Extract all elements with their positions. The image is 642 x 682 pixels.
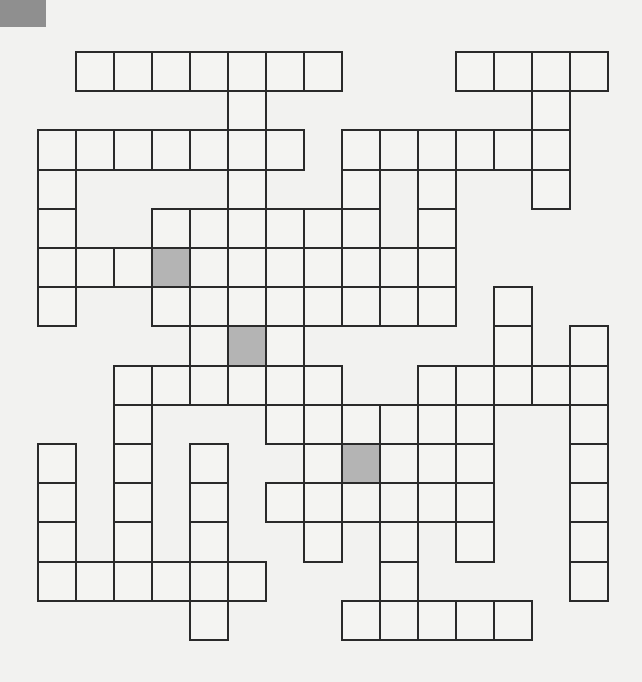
grid-cell[interactable] (455, 129, 495, 170)
grid-cell[interactable] (417, 286, 457, 327)
grid-cell[interactable] (341, 286, 381, 327)
grid-cell[interactable] (265, 404, 305, 445)
grid-cell[interactable] (417, 443, 457, 484)
grid-cell[interactable] (189, 208, 229, 249)
grid-cell[interactable] (303, 247, 343, 288)
grid-cell[interactable] (37, 247, 77, 288)
grid-cell[interactable] (113, 404, 153, 445)
grid-cell[interactable] (531, 169, 571, 210)
grid-cell[interactable] (417, 365, 457, 406)
grid-cell[interactable] (113, 482, 153, 523)
grid-cell[interactable] (75, 51, 115, 92)
grid-cell[interactable] (455, 365, 495, 406)
grid-cell[interactable] (265, 247, 305, 288)
grid-cell[interactable] (227, 51, 267, 92)
grid-cell[interactable] (379, 443, 419, 484)
grid-cell[interactable] (493, 325, 533, 366)
shaded-grid-cell[interactable] (227, 325, 267, 366)
grid-cell[interactable] (379, 521, 419, 562)
grid-cell[interactable] (151, 129, 191, 170)
grid-cell[interactable] (227, 561, 267, 602)
grid-cell[interactable] (227, 365, 267, 406)
grid-cell[interactable] (379, 600, 419, 641)
grid-cell[interactable] (227, 286, 267, 327)
grid-cell[interactable] (493, 51, 533, 92)
grid-cell[interactable] (75, 561, 115, 602)
grid-cell[interactable] (569, 482, 609, 523)
grid-cell[interactable] (341, 208, 381, 249)
grid-cell[interactable] (455, 600, 495, 641)
grid-cell[interactable] (189, 365, 229, 406)
grid-cell[interactable] (265, 51, 305, 92)
grid-cell[interactable] (265, 325, 305, 366)
grid-cell[interactable] (455, 482, 495, 523)
shaded-grid-cell[interactable] (341, 443, 381, 484)
grid-cell[interactable] (37, 286, 77, 327)
grid-cell[interactable] (75, 129, 115, 170)
grid-cell[interactable] (151, 365, 191, 406)
grid-cell[interactable] (37, 208, 77, 249)
grid-cell[interactable] (569, 404, 609, 445)
grid-cell[interactable] (341, 247, 381, 288)
grid-cell[interactable] (189, 443, 229, 484)
grid-cell[interactable] (227, 129, 267, 170)
grid-cell[interactable] (189, 521, 229, 562)
grid-cell[interactable] (531, 129, 571, 170)
grid-cell[interactable] (189, 247, 229, 288)
grid-cell[interactable] (341, 129, 381, 170)
grid-cell[interactable] (189, 325, 229, 366)
grid-cell[interactable] (303, 51, 343, 92)
grid-cell[interactable] (569, 521, 609, 562)
grid-cell[interactable] (37, 561, 77, 602)
grid-cell[interactable] (341, 169, 381, 210)
grid-cell[interactable] (455, 404, 495, 445)
grid-cell[interactable] (531, 90, 571, 131)
grid-cell[interactable] (113, 443, 153, 484)
grid-cell[interactable] (37, 169, 77, 210)
grid-cell[interactable] (417, 600, 457, 641)
grid-cell[interactable] (75, 247, 115, 288)
grid-cell[interactable] (341, 482, 381, 523)
grid-cell[interactable] (569, 325, 609, 366)
grid-cell[interactable] (265, 482, 305, 523)
grid-cell[interactable] (113, 129, 153, 170)
grid-cell[interactable] (189, 51, 229, 92)
grid-cell[interactable] (417, 247, 457, 288)
grid-cell[interactable] (151, 208, 191, 249)
grid-cell[interactable] (189, 129, 229, 170)
grid-cell[interactable] (113, 247, 153, 288)
grid-cell[interactable] (189, 286, 229, 327)
grid-cell[interactable] (303, 286, 343, 327)
grid-cell[interactable] (493, 286, 533, 327)
grid-cell[interactable] (113, 51, 153, 92)
grid-cell[interactable] (113, 365, 153, 406)
grid-cell[interactable] (189, 600, 229, 641)
grid-cell[interactable] (113, 521, 153, 562)
grid-cell[interactable] (569, 51, 609, 92)
grid-cell[interactable] (455, 521, 495, 562)
grid-cell[interactable] (341, 600, 381, 641)
grid-cell[interactable] (37, 482, 77, 523)
grid-cell[interactable] (265, 286, 305, 327)
grid-cell[interactable] (569, 443, 609, 484)
grid-cell[interactable] (417, 482, 457, 523)
grid-cell[interactable] (493, 365, 533, 406)
grid-cell[interactable] (303, 404, 343, 445)
grid-cell[interactable] (341, 404, 381, 445)
grid-cell[interactable] (531, 51, 571, 92)
grid-cell[interactable] (227, 169, 267, 210)
grid-cell[interactable] (227, 90, 267, 131)
grid-cell[interactable] (303, 208, 343, 249)
grid-cell[interactable] (227, 247, 267, 288)
grid-cell[interactable] (303, 482, 343, 523)
grid-cell[interactable] (569, 365, 609, 406)
grid-cell[interactable] (265, 129, 305, 170)
grid-cell[interactable] (417, 169, 457, 210)
grid-cell[interactable] (113, 561, 153, 602)
grid-cell[interactable] (265, 365, 305, 406)
grid-cell[interactable] (303, 365, 343, 406)
grid-cell[interactable] (455, 443, 495, 484)
grid-cell[interactable] (417, 129, 457, 170)
grid-cell[interactable] (379, 129, 419, 170)
shaded-grid-cell[interactable] (151, 247, 191, 288)
